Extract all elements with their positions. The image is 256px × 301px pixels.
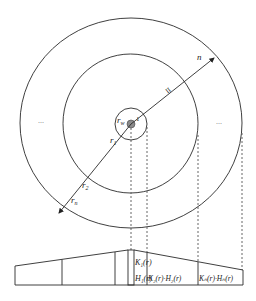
label-rw: rw [117, 115, 125, 126]
radius-arrow-n [131, 58, 214, 124]
ellipsis-right: ... [216, 117, 222, 126]
label-rn: rn [71, 195, 78, 206]
label-zonen-kh: Kₙ(r)·Hₙ(r) [198, 274, 234, 283]
label-r2: r2 [82, 180, 89, 191]
radius-arrow-rn [59, 124, 131, 213]
ellipsis-left: ... [38, 116, 44, 125]
composite-reservoir-diagram: rw 1 II n r1 r2 rn ... ... K₁(r) H₁(r) K… [0, 0, 256, 301]
label-r1: r1 [110, 135, 117, 146]
label-zone-n: n [197, 52, 202, 62]
label-k1: K₁(r) [134, 258, 152, 267]
label-zone-2: II [164, 86, 173, 96]
label-zone-1: 1 [136, 115, 140, 123]
label-zone2-kh: K₂(r)·H₂(r) [147, 274, 182, 283]
